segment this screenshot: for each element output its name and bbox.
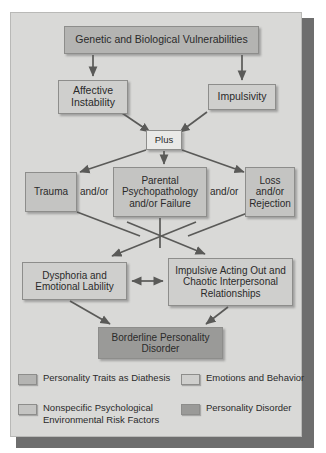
node-genetic-biological-vulnerabilities: Genetic and Biological Vulnerabilities: [64, 26, 259, 54]
node-label: Affective Instability: [59, 85, 127, 109]
legend-swatch-icon: [181, 404, 200, 415]
node-impulsivity: Impulsivity: [208, 84, 276, 110]
node-label: Parental Psychopathology and/or Failure: [114, 175, 206, 209]
legend-item-nonspecific-risk-factors: Nonspecific Psychological Environmental …: [18, 402, 193, 426]
connector-label-andor-left: and/or: [80, 186, 108, 197]
node-borderline-personality-disorder: Borderline Personality Disorder: [98, 327, 223, 359]
node-loss-rejection: Loss and/or Rejection: [245, 167, 295, 217]
legend-item-personality-disorder: Personality Disorder: [181, 402, 321, 415]
legend-item-label: Personality Traits as Diathesis: [43, 372, 170, 384]
node-label: Borderline Personality Disorder: [99, 332, 222, 354]
node-plus-connector: Plus: [146, 130, 182, 150]
node-label: Genetic and Biological Vulnerabilities: [75, 34, 247, 46]
legend-item-label: Personality Disorder: [206, 402, 292, 414]
connector-label-andor-right: and/or: [210, 186, 238, 197]
node-affective-instability: Affective Instability: [58, 80, 128, 114]
node-impulsive-acting-out: Impulsive Acting Out and Chaotic Interpe…: [168, 258, 293, 306]
node-trauma: Trauma: [25, 172, 77, 212]
node-label: Dysphoria and Emotional Lability: [23, 270, 126, 292]
figure-shadow-bottom: [16, 436, 314, 448]
diagram-figure: Genetic and Biological Vulnerabilities A…: [0, 0, 326, 453]
node-parental-psychopathology: Parental Psychopathology and/or Failure: [113, 167, 207, 217]
legend-swatch-icon: [18, 404, 37, 415]
legend-swatch-icon: [181, 374, 200, 385]
node-label: Plus: [155, 135, 173, 146]
node-label: Trauma: [34, 186, 68, 197]
node-label: Impulsivity: [217, 91, 266, 103]
legend-swatch-icon: [18, 374, 37, 385]
node-dysphoria-emotional-lability: Dysphoria and Emotional Lability: [22, 262, 127, 300]
legend-item-emotions-and-behavior: Emotions and Behavior: [181, 372, 321, 385]
legend-item-label: Emotions and Behavior: [206, 372, 304, 384]
node-label: Impulsive Acting Out and Chaotic Interpe…: [169, 265, 292, 299]
legend-item-label: Nonspecific Psychological Environmental …: [43, 402, 193, 426]
node-label: Loss and/or Rejection: [246, 175, 294, 209]
legend-item-personality-traits: Personality Traits as Diathesis: [18, 372, 173, 385]
